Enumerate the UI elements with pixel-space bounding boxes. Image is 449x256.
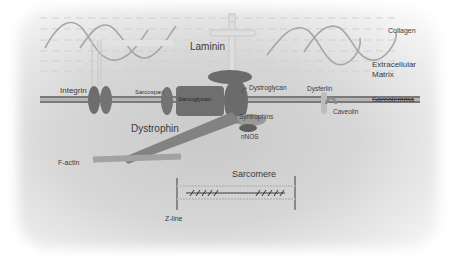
- label-sarcospan: Sarcospan: [135, 89, 164, 95]
- collagen-fibers-right: [267, 26, 396, 64]
- label-dystroglycan: Dystroglycan: [249, 85, 287, 92]
- label-integrin: Integrin: [60, 87, 87, 95]
- label-f-actin: F-actin: [58, 159, 79, 166]
- label-nnos: nNOS: [241, 134, 259, 141]
- sarcomere: [177, 176, 295, 210]
- label-z-line: Z-line: [165, 215, 183, 222]
- label-collagen: Collagen: [388, 27, 416, 34]
- label-sarcomere: Sarcomere: [232, 170, 276, 179]
- label-syntrophins: Syntrophins: [239, 114, 273, 121]
- label-sarcoglycan: Sarcoglycan: [178, 96, 211, 102]
- diagram-graphics: [0, 0, 449, 256]
- label-matrix: Matrix: [372, 71, 394, 79]
- label-sarcolemma: Sarcolemma: [372, 96, 414, 104]
- label-extracellular: Extracellular: [372, 61, 416, 69]
- diagram-canvas: Laminin Collagen Extracellular Matrix In…: [0, 0, 449, 256]
- label-dystrophin: Dystrophin: [131, 124, 179, 134]
- label-caveolin: Caveolin: [333, 109, 358, 116]
- integrin: [88, 86, 112, 114]
- laminin-molecule: [94, 14, 256, 74]
- integrin-stalks: [92, 40, 101, 86]
- nnos: [239, 124, 257, 132]
- label-dysferlin: Dysferlin: [307, 86, 332, 93]
- label-laminin: Laminin: [190, 42, 225, 52]
